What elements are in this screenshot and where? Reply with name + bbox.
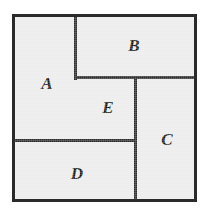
region-label-a: A bbox=[41, 75, 52, 92]
region-label-d: D bbox=[71, 165, 83, 182]
region-label-b: B bbox=[128, 37, 139, 54]
divider-a-b bbox=[74, 14, 77, 80]
region-label-e: E bbox=[102, 99, 113, 116]
diagram-root: A B E C D bbox=[0, 0, 212, 216]
outer-square-frame: A B E C D bbox=[12, 14, 197, 202]
divider-d-top bbox=[12, 139, 137, 142]
region-label-c: C bbox=[161, 131, 172, 148]
